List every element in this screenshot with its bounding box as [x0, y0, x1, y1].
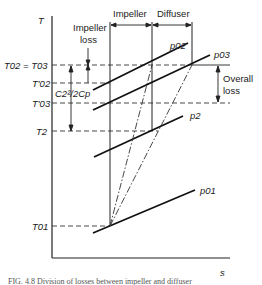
label-t03-prime: T'03 [32, 98, 51, 109]
span-arrows [111, 23, 191, 27]
isobar-p2 [94, 116, 183, 157]
label-t02-eq-t03: T02 = T03 [4, 60, 48, 71]
label-overall-loss-2: loss [223, 85, 240, 96]
label-impeller-loss-1: Impeller [73, 22, 107, 33]
label-p03: p03 [213, 49, 231, 60]
label-p01: p01 [199, 185, 216, 196]
label-t01: T01 [32, 221, 48, 232]
label-impeller-loss-2: loss [80, 34, 97, 45]
label-overall-loss-1: Overall [223, 73, 253, 84]
impeller-loss-arrows [86, 48, 90, 83]
label-diffuser: Diffuser [157, 8, 190, 19]
label-p2: p2 [189, 110, 201, 121]
axes [52, 16, 230, 258]
label-t2: T2 [36, 126, 48, 137]
t-axis-label: T [38, 15, 45, 26]
label-kinetic-term: C2²/2Cp [55, 88, 90, 99]
figure-caption: FIG. 4.8 Division of losses between impe… [8, 277, 192, 285]
label-impeller: Impeller [113, 8, 147, 19]
isobar-p01 [93, 190, 195, 233]
process-lines [110, 65, 192, 226]
stage-boundaries [110, 22, 192, 226]
label-p02: p02 [169, 40, 187, 51]
label-t02-prime: T'02 [32, 78, 51, 89]
overall-loss-arrow [216, 66, 220, 102]
ts-diagram: T s T02 = T03 T'02 T'03 T2 T01 p02 p03 p… [0, 0, 262, 285]
s-axis-label: s [220, 267, 225, 278]
